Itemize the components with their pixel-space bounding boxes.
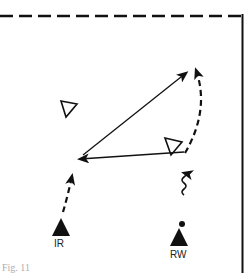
player-label-rw: RW — [170, 249, 186, 260]
pass-arrow — [80, 152, 184, 159]
player-ir-icon — [52, 218, 70, 236]
player-label-ir: IR — [54, 238, 64, 249]
run-path — [63, 176, 72, 212]
run-path — [185, 70, 201, 153]
play-diagram — [0, 0, 247, 273]
dribble-path — [182, 173, 186, 195]
pass-arrow — [83, 73, 186, 155]
defender-icon — [61, 101, 77, 117]
ball-icon — [179, 221, 185, 227]
player-rw-icon — [170, 228, 188, 246]
figure-caption: Fig. 11 — [2, 262, 30, 273]
